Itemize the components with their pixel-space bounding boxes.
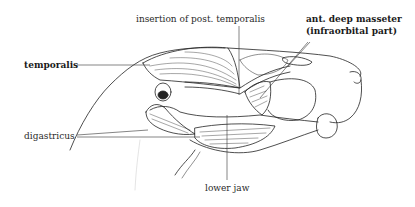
mandible: [150, 106, 318, 122]
leader-ant-deep-masseter-1: [288, 42, 310, 66]
snout: [330, 80, 362, 123]
head-outline: [70, 48, 225, 150]
label-temporalis: temporalis: [24, 60, 78, 70]
nose-tip: [350, 71, 361, 83]
infraorbital-foramen: [282, 57, 312, 66]
label-digastricus: digastricus: [24, 131, 75, 141]
label-ant-deep-masseter: ant. deep masseter: [306, 14, 402, 24]
skull-musculature-figure: insertion of post. temporalis ant. deep …: [0, 0, 415, 207]
leader-digastricus-1: [77, 130, 148, 135]
lower-jaw-muscle: [195, 124, 275, 149]
skull-top: [228, 48, 361, 76]
label-infraorbital-part: (infraorbital part): [306, 26, 397, 36]
cheek: [268, 79, 316, 121]
orbit: [240, 54, 288, 75]
label-lower-jaw: lower jaw: [205, 183, 249, 193]
masseter-muscle: [245, 81, 271, 115]
zygomatic-arch: [185, 66, 290, 88]
incisor-bulb: [316, 114, 337, 138]
label-insertion-post-temporalis: insertion of post. temporalis: [136, 14, 265, 24]
